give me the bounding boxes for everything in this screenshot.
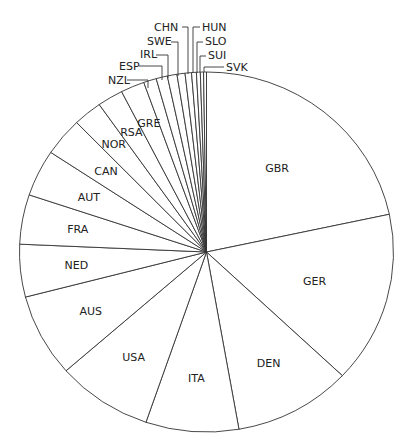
slice-label-ita: ITA (188, 372, 205, 385)
slice-label-ned: NED (64, 259, 88, 272)
leader-line-chn (182, 27, 188, 74)
slice-label-nzl: NZL (108, 74, 131, 87)
slice-label-svk: SVK (226, 61, 249, 74)
slice-label-irl: IRL (140, 48, 158, 61)
slice-label-nor: NOR (101, 138, 126, 151)
slice-label-aut: AUT (78, 191, 101, 204)
pie-slices (19, 72, 393, 432)
slice-label-gbr: GBR (265, 162, 289, 175)
leader-line-svk (204, 67, 224, 72)
slice-label-sui: SUI (208, 49, 226, 62)
slice-label-esp: ESP (119, 60, 140, 73)
leader-line-swe (171, 42, 178, 76)
slice-label-usa: USA (122, 351, 145, 364)
slice-label-swe: SWE (147, 35, 172, 48)
leader-line-sui (200, 56, 206, 72)
slice-label-ger: GER (303, 275, 326, 288)
slice-label-hun: HUN (202, 21, 227, 34)
slice-label-den: DEN (257, 357, 281, 370)
slice-label-can: CAN (94, 165, 117, 178)
pie-chart: GBRGERDENITAUSAAUSNEDFRAAUTCANNORRSAGRE … (0, 0, 408, 445)
leader-line-hun (193, 27, 200, 73)
slice-label-gre: GRE (137, 117, 160, 130)
slice-label-aus: AUS (80, 305, 103, 318)
slice-label-slo: SLO (205, 35, 227, 48)
slice-label-fra: FRA (67, 223, 89, 236)
slice-label-chn: CHN (154, 21, 178, 34)
